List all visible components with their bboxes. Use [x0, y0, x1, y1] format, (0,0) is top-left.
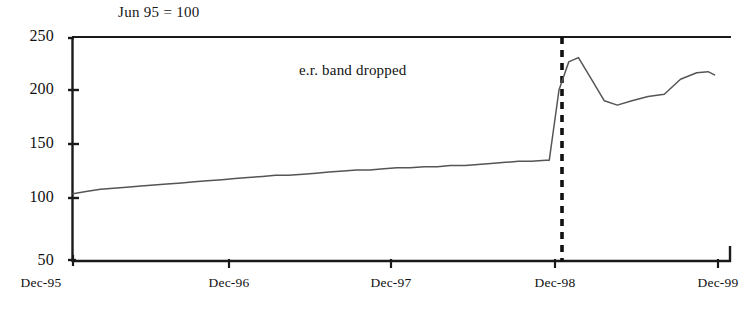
chart-figure: Jun 95 = 100 250 200 150 100 50 Dec-95 D… — [0, 0, 745, 309]
data-series-line — [73, 58, 715, 194]
chart-plot-area — [0, 0, 745, 309]
axis-frame — [72, 37, 731, 262]
